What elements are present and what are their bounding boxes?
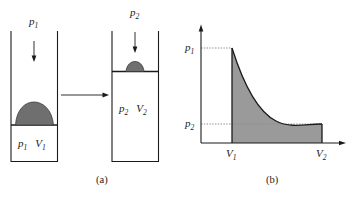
tick-label-p2: p2 (185, 118, 194, 132)
tick-label-p1: p1 (185, 42, 194, 56)
volume-axis-arrowhead (339, 141, 346, 146)
process-arrow (61, 93, 109, 98)
pressure-axis (199, 25, 204, 144)
cylinder-final-sand-mound (126, 62, 144, 72)
work-area-under-curve (232, 48, 322, 143)
physics-figure: p1 p1V1 p2 p2V2 (a) p1 p2 V1 V2 (b) (0, 0, 359, 197)
cylinder-initial-sand-mound (16, 102, 54, 125)
gas-state-label-1: p1V1 (18, 138, 46, 152)
pressure-arrow-initial-head (32, 56, 37, 63)
gas-state-label-2: p2V2 (119, 103, 147, 117)
panel-tag-b: (b) (266, 175, 278, 186)
figure-canvas (0, 0, 359, 197)
process-arrow-head (103, 93, 110, 98)
tick-label-v2: V2 (316, 148, 326, 162)
tick-label-v1: V1 (226, 148, 236, 162)
pressure-arrow-final-head (133, 47, 138, 54)
pressure-arrow-initial (32, 41, 37, 62)
pressure-label-p2: p2 (130, 7, 139, 21)
pressure-arrow-final (133, 32, 138, 53)
pressure-axis-arrowhead (199, 25, 204, 32)
panel-tag-a: (a) (96, 175, 108, 186)
pressure-label-p1: p1 (29, 16, 38, 30)
